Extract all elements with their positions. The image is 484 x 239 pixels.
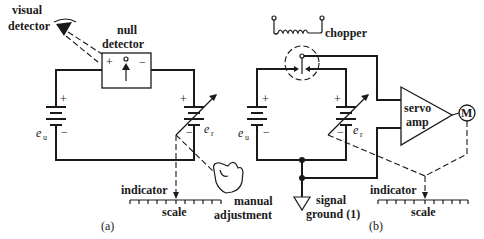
svg-text:−: −: [263, 125, 270, 139]
servo-amp-label-2: amp: [406, 115, 429, 129]
indicator-scale-a: [130, 200, 221, 204]
eu-label: e: [36, 126, 42, 140]
hand-icon: [214, 162, 243, 193]
svg-text:−: −: [186, 125, 193, 139]
indicator-arrow-icon: [173, 192, 179, 199]
svg-text:−: −: [61, 125, 68, 139]
visual-detector-label-1: visual: [12, 3, 43, 17]
sight-line: [66, 36, 98, 62]
motor-linkage: [425, 121, 467, 176]
svg-text:u: u: [43, 133, 47, 142]
signal-ground-label-2: ground (1): [306, 207, 360, 221]
eye-icon: [54, 19, 76, 36]
null-detector-plus: +: [106, 55, 113, 69]
battery-er-b: + − e r: [328, 92, 369, 139]
wire: [151, 70, 194, 106]
signal-ground-label-1: signal: [316, 193, 347, 207]
er-label-b: e: [353, 123, 359, 137]
chopper-contact: [300, 54, 304, 58]
svg-text:r: r: [211, 129, 214, 138]
svg-text:+: +: [334, 92, 341, 106]
null-detector-label-2: detector: [102, 37, 145, 51]
wire: [452, 113, 459, 115]
manual-adjustment-label-2: adjustment: [214, 208, 272, 222]
contact-arrow-icon: [294, 66, 299, 72]
indicator-label-a: indicator: [121, 183, 168, 197]
null-detector-minus: −: [139, 55, 146, 69]
svg-text:+: +: [60, 92, 67, 106]
caption-a: (a): [101, 219, 114, 233]
battery-er: + − e r: [176, 92, 217, 139]
svg-text:r: r: [360, 130, 363, 139]
caption-b: (b): [369, 219, 383, 233]
wire: [302, 128, 401, 178]
scale-label-a: scale: [162, 205, 187, 219]
contact-arrow-icon: [305, 66, 310, 72]
wire: [56, 126, 194, 160]
indicator-arrow-icon: [422, 192, 428, 199]
indicator-scale-b: [378, 200, 468, 204]
junction-dot: [299, 157, 305, 163]
figure-b: chopper signal ground (1) + − e u: [238, 16, 475, 233]
visual-detector-label-2: detector: [8, 19, 51, 33]
svg-text:u: u: [245, 133, 249, 142]
sight-line: [68, 32, 102, 54]
manual-adjustment-label-1: manual: [234, 194, 273, 208]
wire: [304, 56, 401, 100]
er-label: e: [204, 122, 210, 136]
chopper-label: chopper: [325, 26, 368, 40]
motor-label: M: [461, 106, 472, 120]
svg-text:−: −: [337, 125, 344, 139]
svg-text:+: +: [180, 92, 187, 106]
battery-eu: + − e u: [36, 92, 68, 142]
battery-eu-b: + − e u: [238, 92, 270, 142]
scale-label-b: scale: [411, 205, 436, 219]
indicator-label-b: indicator: [370, 183, 417, 197]
figure-a: visual detector null detector + − + − e …: [8, 3, 273, 233]
svg-text:+: +: [262, 92, 269, 106]
servo-amp-label-1: servo: [404, 101, 431, 115]
chopper-coil: [272, 16, 324, 34]
eu-label-b: e: [238, 126, 244, 140]
potentiometer-diagram: visual detector null detector + − + − e …: [0, 0, 484, 239]
null-detector-label-1: null: [117, 23, 138, 37]
